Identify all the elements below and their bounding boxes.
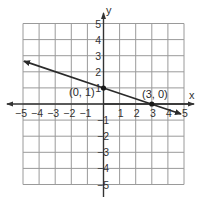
y-tick-label: −1 bbox=[97, 114, 109, 126]
y-tick-label: 2 bbox=[95, 66, 101, 78]
x-tick-label: −1 bbox=[79, 107, 91, 119]
y-tick-label: −4 bbox=[97, 162, 109, 174]
y-axis-label: y bbox=[106, 4, 112, 16]
y-tick-label: 1 bbox=[95, 82, 101, 94]
y-tick-label: −5 bbox=[97, 179, 109, 191]
y-tick-label: 4 bbox=[95, 34, 101, 46]
x-tick-label: 3 bbox=[150, 107, 156, 119]
line-y-equals-neg-third-x-plus-1 bbox=[24, 61, 104, 88]
point-label-0-1: (0, 1) bbox=[69, 86, 95, 98]
x-tick-label: −4 bbox=[31, 107, 43, 119]
point-3-0 bbox=[149, 101, 154, 106]
x-tick-label: −2 bbox=[63, 107, 75, 119]
y-tick-label: −2 bbox=[97, 130, 109, 142]
x-tick-label: 5 bbox=[182, 107, 188, 119]
y-tick-label: 3 bbox=[95, 50, 101, 62]
point-0-1 bbox=[101, 85, 106, 90]
y-tick-label: −3 bbox=[97, 146, 109, 158]
point-label-3-0: (3, 0) bbox=[142, 88, 168, 100]
x-tick-label: −5 bbox=[15, 107, 27, 119]
x-tick-label: 2 bbox=[134, 107, 140, 119]
x-tick-label: 1 bbox=[118, 107, 124, 119]
x-tick-label: −3 bbox=[47, 107, 59, 119]
coordinate-plane: x y −5−4−3−2−11234554321−1−2−3−4−5 (0, 1… bbox=[0, 0, 201, 197]
x-axis-label: x bbox=[189, 89, 195, 101]
y-tick-label: 5 bbox=[95, 18, 101, 30]
